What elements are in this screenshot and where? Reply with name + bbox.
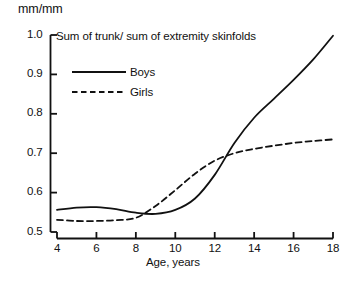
y-tick-label: 0.5 <box>17 225 43 237</box>
y-tick-label: 1.0 <box>17 28 43 40</box>
legend-swatch-group <box>72 72 126 92</box>
chart-plot-svg <box>0 0 346 281</box>
series-line-girls <box>57 139 333 221</box>
y-tick-label: 0.6 <box>17 185 43 197</box>
x-tick-label: 10 <box>165 242 185 254</box>
y-tick-label: 0.8 <box>17 106 43 118</box>
x-tick-label: 4 <box>47 242 67 254</box>
y-tick-marks <box>51 35 58 232</box>
y-tick-label: 0.9 <box>17 67 43 79</box>
x-tick-marks <box>57 232 333 239</box>
data-series-group <box>57 36 333 221</box>
y-tick-label: 0.7 <box>17 146 43 158</box>
x-tick-label: 18 <box>323 242 343 254</box>
x-tick-label: 8 <box>126 242 146 254</box>
chart-container: mm/mm Sum of trunk/ sum of extremity ski… <box>0 0 346 281</box>
x-tick-label: 14 <box>244 242 264 254</box>
x-tick-label: 12 <box>205 242 225 254</box>
series-line-boys <box>57 36 333 214</box>
x-tick-label: 6 <box>86 242 106 254</box>
x-tick-label: 16 <box>284 242 304 254</box>
